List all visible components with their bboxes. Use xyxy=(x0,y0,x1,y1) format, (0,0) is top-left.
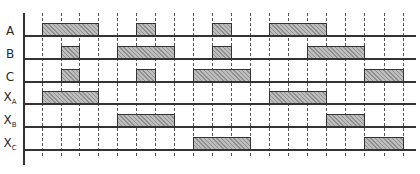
signal-label-c: C xyxy=(0,70,20,84)
signal-baseline xyxy=(23,58,416,60)
signal-label-text: A xyxy=(6,24,14,38)
signal-label-subscript: B xyxy=(12,121,17,129)
signal-label-subscript: A xyxy=(12,98,17,106)
signal-label-b: B xyxy=(0,47,20,61)
signal-label-subscript: C xyxy=(12,144,17,152)
signal-label-xc: XC xyxy=(0,136,20,155)
signal-baseline xyxy=(23,81,416,83)
time-axis xyxy=(23,13,25,165)
signal-label-xb: XB xyxy=(0,113,20,132)
signal-label-a: A xyxy=(0,24,20,38)
signal-label-text: X xyxy=(3,136,11,150)
signal-label-xa: XA xyxy=(0,90,20,109)
signal-baseline xyxy=(23,149,416,151)
signal-baseline xyxy=(23,103,416,105)
signal-label-text: X xyxy=(3,90,11,104)
signal-label-text: C xyxy=(6,70,14,84)
signal-baseline xyxy=(23,126,416,128)
signal-baseline xyxy=(23,35,416,37)
signal-label-text: B xyxy=(6,47,14,61)
signal-label-text: X xyxy=(3,113,11,127)
timing-diagram: ABCXAXBXC xyxy=(0,0,420,174)
